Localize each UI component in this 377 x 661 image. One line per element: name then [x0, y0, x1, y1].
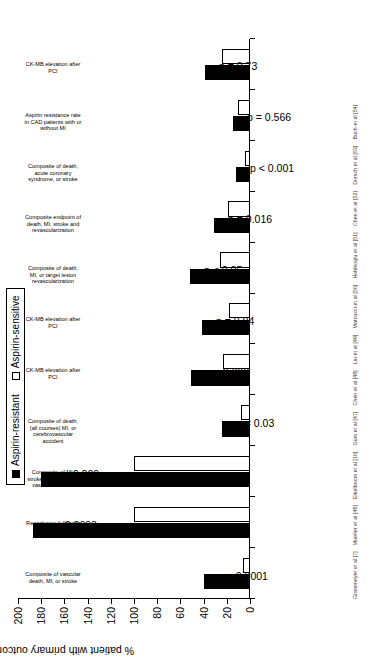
y-axis-tick-label: 20	[221, 607, 233, 619]
y-axis-tick	[41, 599, 42, 604]
x-axis-tick	[250, 394, 255, 395]
y-axis-tick-label: 120	[105, 607, 117, 625]
p-value-label: p = 0.006	[205, 366, 249, 378]
chart-stage: % patient with primary outcome or odds r…	[0, 0, 377, 661]
citation-entry: Gum et al [47]	[352, 411, 358, 445]
x-axis-tick	[250, 140, 255, 141]
x-axis-category-label: CK-MB elevation after PCI	[24, 316, 82, 329]
x-axis-category-label: Aspirin resistance rate in CAD patients …	[24, 112, 82, 132]
plot-area: 020406080100120140160180200p < 0.0001Com…	[18, 39, 250, 599]
citation-entry: Gratemeyer et al [7]	[352, 551, 358, 599]
p-value-label: p < 0.05	[204, 264, 242, 276]
citation-entry: Hobikoglu et al [51]	[352, 232, 358, 278]
x-axis-tick	[250, 89, 255, 90]
x-axis-category-label: Composite of MI, stroke, or death from v…	[24, 469, 82, 489]
p-value-label: p = 0.016	[228, 213, 272, 225]
bar-aspirin-sensitive	[134, 456, 250, 471]
rotated-figure: % patient with primary outcome or odds r…	[0, 0, 377, 661]
x-axis-tick	[250, 496, 255, 497]
p-value-label: p < 0.001	[250, 162, 294, 174]
x-axis-category-label: Composite of death, (all courses) MI, or…	[24, 418, 82, 444]
x-axis-category-label: Composite of vascular death, MI, or stro…	[24, 571, 82, 584]
x-axis-tick	[250, 191, 255, 192]
x-axis-category-label: CK-MB elevation after PCI	[24, 61, 82, 74]
x-axis-category-label: Composite of death, MI, or target lesion…	[24, 265, 82, 285]
y-axis-tick	[134, 599, 135, 604]
y-axis-tick	[204, 599, 205, 604]
y-axis-tick	[227, 599, 228, 604]
x-axis-category-label: CK-MB elevation after PCI	[24, 367, 82, 380]
citation-entry: Dorsch et al [53]	[352, 145, 358, 184]
x-axis-category-label: Composite endpoint of death, MI, stroke …	[24, 214, 82, 234]
p-value-label: p = 0.04	[216, 315, 254, 327]
p-value-label: p = 0.73	[219, 60, 257, 72]
x-axis-tick	[250, 293, 255, 294]
y-axis-tick	[111, 599, 112, 604]
y-axis-tick	[64, 599, 65, 604]
y-axis-tick	[18, 599, 19, 604]
y-axis-tick-label: 80	[151, 607, 163, 619]
bar-aspirin-sensitive	[134, 507, 250, 522]
y-axis-title: % patient with primary outcome or odds r…	[0, 645, 134, 657]
y-axis-tick-label: 180	[35, 607, 47, 625]
y-axis-tick-label: 140	[82, 607, 94, 625]
citation-entry: Eikelboom et al [10]	[352, 451, 358, 499]
y-axis-tick-label: 160	[58, 607, 70, 625]
x-axis-tick	[250, 445, 255, 446]
x-axis-tick	[250, 547, 255, 548]
x-axis-category-label: Reocclusion following peripheral PTA	[24, 520, 82, 533]
x-axis-category-label: Composite of death, acute coronary syndr…	[24, 163, 82, 183]
bar-aspirin-resistant	[236, 167, 250, 182]
citation-entry: Chen et al [48]	[352, 370, 358, 405]
y-axis-tick-label: 60	[174, 607, 186, 619]
citation-entry: Mueller et al [46]	[352, 505, 358, 545]
p-value-label: p = 0.566	[247, 111, 291, 123]
citation-entry: Buch et al [54]	[352, 105, 358, 140]
citation-footnote: Gratemeyer et al [7]Mueller et al [46]Ei…	[352, 99, 358, 599]
y-axis-tick-label: 200	[12, 607, 24, 625]
y-axis-tick-label: 40	[198, 607, 210, 619]
y-axis-tick	[88, 599, 89, 604]
citation-entry: Chen et al [52]	[352, 191, 358, 226]
x-axis-tick	[250, 38, 255, 39]
y-axis-tick	[250, 599, 251, 604]
y-axis-tick-label: 100	[128, 607, 140, 625]
x-axis-tick	[250, 598, 255, 599]
citation-entry: Liu et al [49]	[352, 335, 358, 365]
y-axis-tick-label: 0	[244, 607, 256, 613]
y-axis-tick	[180, 599, 181, 604]
p-value-label: p < 0.0001	[218, 570, 268, 582]
y-axis-tick	[157, 599, 158, 604]
citation-entry: Marcucci et al [50]	[352, 285, 358, 329]
x-axis-tick	[250, 343, 255, 344]
p-value-label: p = 0.03	[236, 417, 274, 429]
x-axis-tick	[250, 242, 255, 243]
